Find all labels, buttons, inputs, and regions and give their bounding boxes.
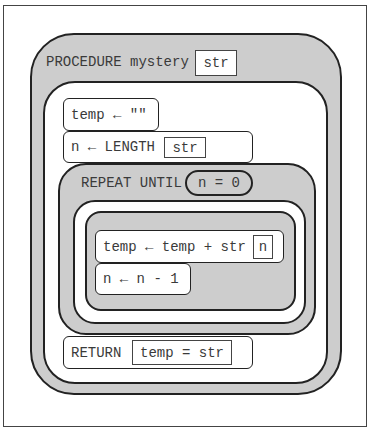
concat-index-slot[interactable]: n xyxy=(253,235,273,259)
return-expression-slot[interactable]: temp = str xyxy=(132,340,232,365)
statement-init-temp[interactable]: temp ← "" xyxy=(63,98,159,131)
statement-assign-n-text: n ← LENGTH xyxy=(71,139,155,155)
statement-decrement-text: n ← n - 1 xyxy=(103,271,179,287)
procedure-keyword: PROCEDURE mystery xyxy=(46,54,189,70)
procedure-parameter-slot[interactable]: str xyxy=(195,50,237,76)
length-argument-slot[interactable]: str xyxy=(164,137,206,158)
repeat-until-keyword: REPEAT UNTIL xyxy=(81,175,182,191)
statement-concat-text: temp ← temp + str xyxy=(103,239,246,255)
repeat-condition[interactable]: n = 0 xyxy=(185,170,253,196)
return-keyword: RETURN xyxy=(71,345,121,361)
statement-assign-n[interactable]: n ← LENGTH xyxy=(63,131,253,163)
statement-decrement[interactable]: n ← n - 1 xyxy=(95,263,191,295)
statement-init-temp-text: temp ← "" xyxy=(71,107,147,123)
